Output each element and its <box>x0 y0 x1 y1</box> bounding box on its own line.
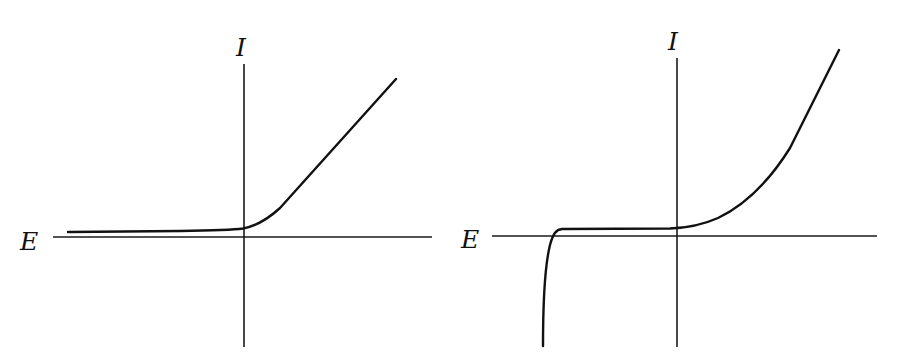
right-y-axis-label: I <box>667 27 679 56</box>
left-plot: I E <box>19 33 432 347</box>
left-iv-curve <box>68 79 396 232</box>
figure: I E I E <box>0 0 900 363</box>
left-y-axis-label: I <box>235 33 247 62</box>
right-iv-curve <box>543 50 839 346</box>
left-x-axis-label: E <box>19 227 38 256</box>
right-x-axis-label: E <box>460 225 479 254</box>
right-plot: I E <box>460 27 877 347</box>
